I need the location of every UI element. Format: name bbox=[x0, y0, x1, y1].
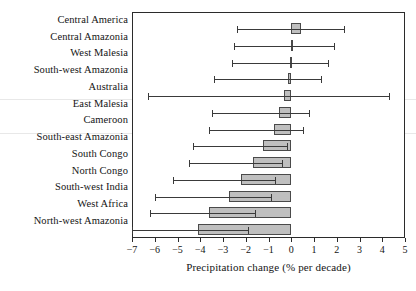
error-bar-cap bbox=[287, 143, 288, 150]
error-bar-cap bbox=[255, 210, 256, 217]
error-bar-cap bbox=[334, 43, 335, 50]
error-bar-cap bbox=[389, 93, 390, 100]
error-bar-line bbox=[148, 96, 389, 97]
error-bar-cap bbox=[237, 26, 238, 33]
x-axis-tick bbox=[223, 238, 224, 242]
error-bar-cap bbox=[309, 110, 310, 117]
error-bar-line bbox=[237, 29, 344, 30]
x-axis-tick bbox=[132, 238, 133, 242]
x-axis-tick bbox=[200, 238, 201, 242]
error-bar-line bbox=[132, 230, 248, 231]
error-bar-cap bbox=[155, 194, 156, 201]
error-bar-line bbox=[214, 79, 321, 80]
x-axis-tick bbox=[291, 238, 292, 242]
error-bar-line bbox=[173, 180, 275, 181]
x-axis-title: Precipitation change (% per decade) bbox=[61, 262, 416, 273]
error-bar-cap bbox=[232, 60, 233, 67]
category-label: West Africa bbox=[0, 199, 133, 210]
error-bar-line bbox=[150, 213, 255, 214]
category-label: North Congo bbox=[0, 166, 133, 177]
error-bar-line bbox=[209, 130, 302, 131]
error-bar-cap bbox=[193, 143, 194, 150]
error-bar-line bbox=[212, 113, 310, 114]
error-bar-line bbox=[232, 63, 328, 64]
x-axis-tick bbox=[360, 238, 361, 242]
precipitation-change-bar-chart: Central AmericaCentral AmazoniaWest Male… bbox=[0, 0, 416, 291]
category-label: South Congo bbox=[0, 149, 133, 160]
error-bar-cap bbox=[303, 127, 304, 134]
error-bar-cap bbox=[282, 160, 283, 167]
error-bar-cap bbox=[214, 76, 215, 83]
error-bar-cap bbox=[321, 76, 322, 83]
category-label: Cameroon bbox=[0, 115, 133, 126]
x-axis-tick bbox=[314, 238, 315, 242]
error-bar-cap bbox=[328, 60, 329, 67]
category-label: North-west Amazonia bbox=[0, 216, 133, 227]
error-bar-cap bbox=[248, 227, 249, 234]
error-bar-cap bbox=[150, 210, 151, 217]
x-axis-tick bbox=[405, 238, 406, 242]
x-axis-tick bbox=[269, 238, 270, 242]
error-bar-line bbox=[155, 197, 271, 198]
error-bar-cap bbox=[271, 194, 272, 201]
category-label: South-west Amazonia bbox=[0, 65, 133, 76]
error-bar-cap bbox=[132, 227, 133, 234]
x-axis-tick bbox=[246, 238, 247, 242]
error-bar-line bbox=[189, 163, 282, 164]
category-label: West Malesia bbox=[0, 48, 133, 59]
error-bar-cap bbox=[275, 177, 276, 184]
category-label: South-west India bbox=[0, 182, 133, 193]
error-bar-cap bbox=[173, 177, 174, 184]
x-axis-tick bbox=[155, 238, 156, 242]
error-bar-line bbox=[193, 146, 286, 147]
error-bar-cap bbox=[189, 160, 190, 167]
error-bar-cap bbox=[209, 127, 210, 134]
category-label: Central Amazonia bbox=[0, 32, 133, 43]
x-axis-tick bbox=[382, 238, 383, 242]
x-axis-tick-label: 5 bbox=[391, 245, 416, 255]
error-bar-cap bbox=[344, 26, 345, 33]
error-bar-line bbox=[234, 46, 334, 47]
error-bar-cap bbox=[234, 43, 235, 50]
x-axis-tick bbox=[178, 238, 179, 242]
error-bar-cap bbox=[148, 93, 149, 100]
category-label: Australia bbox=[0, 82, 133, 93]
error-bar-cap bbox=[212, 110, 213, 117]
category-label: East Malesia bbox=[0, 99, 133, 110]
x-axis-tick bbox=[337, 238, 338, 242]
category-label: Central America bbox=[0, 15, 133, 26]
